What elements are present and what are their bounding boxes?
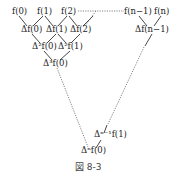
cell-fn: f(n) bbox=[154, 6, 169, 16]
dotted-left-edge bbox=[57, 68, 88, 147]
cell-delta-fn-1: Δf(n−1) bbox=[135, 24, 169, 34]
cell-f2: f(2) bbox=[61, 6, 76, 16]
dotted-right-edge bbox=[108, 47, 144, 124]
cell-delta2-f0: Δ²f(0) bbox=[32, 41, 57, 51]
cell-fn-1: f(n−1) bbox=[124, 6, 152, 16]
cell-deltan-1-f1: Δⁿ⁻¹f(1) bbox=[94, 129, 127, 139]
cell-delta-f2: Δf(2) bbox=[70, 24, 91, 34]
figure-caption: 図 8-3 bbox=[75, 160, 102, 173]
cell-deltan-f0: Δⁿf(0) bbox=[81, 145, 106, 155]
cell-delta2-f1: Δ²f(1) bbox=[58, 41, 83, 51]
cell-delta3-f0: Δ³f(0) bbox=[43, 58, 68, 68]
cell-delta-f0: Δf(0) bbox=[21, 24, 42, 34]
cell-f0: f(0) bbox=[12, 6, 27, 16]
cell-delta-f1: Δf(1) bbox=[46, 24, 67, 34]
cell-f1: f(1) bbox=[37, 6, 52, 16]
